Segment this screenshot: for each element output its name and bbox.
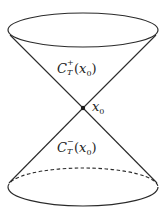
cone-drawing <box>0 0 166 216</box>
apex-label: x0 <box>92 100 104 116</box>
past-cone-rim-back <box>8 168 158 187</box>
light-cone-diagram: C+T(x0) x0 C−T(x0) <box>0 0 166 216</box>
apex-point <box>81 106 85 110</box>
past-cone-rim-front <box>8 187 158 206</box>
future-cone-subscript: T <box>67 69 72 77</box>
future-cone-superscript: + <box>67 59 74 67</box>
future-cone-label: C+T(x0) <box>57 62 97 78</box>
past-cone-symbol: C <box>57 140 67 155</box>
past-cone-superscript: − <box>67 138 74 146</box>
past-cone-label: C−T(x0) <box>57 141 97 157</box>
future-cone-symbol: C <box>57 61 67 76</box>
past-cone-paren-close: ) <box>91 140 96 155</box>
apex-sub: 0 <box>99 107 104 116</box>
past-cone-subscript: T <box>67 148 72 156</box>
future-cone-scripts: +T <box>67 62 74 75</box>
past-cone-scripts: −T <box>67 141 74 154</box>
future-cone-rim <box>8 13 158 47</box>
future-cone-paren-close: ) <box>91 61 96 76</box>
